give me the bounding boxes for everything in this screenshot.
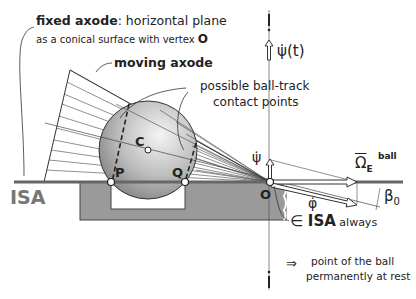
point-o-label: O xyxy=(260,188,271,201)
in-isa-text: ISA xyxy=(308,212,336,230)
omega-symbol: Ω xyxy=(355,154,366,172)
point-o-marker xyxy=(267,179,274,186)
isa-label: ISA xyxy=(10,188,45,207)
rest-line1: point of the ball xyxy=(311,256,394,267)
implies-icon: ⇒ xyxy=(286,257,297,270)
omega-subscript: E xyxy=(366,164,372,174)
fixed-axode-title: fixed axode xyxy=(36,13,118,28)
fixed-axode-desc: : horizontal plane xyxy=(118,13,227,28)
psi-dot-t-arrow-icon xyxy=(265,40,273,60)
beta-subscript: 0 xyxy=(394,196,400,207)
phi-dot-label: φ̇ xyxy=(308,196,317,210)
track-block xyxy=(80,182,286,220)
psi-dot-arrow-icon xyxy=(266,159,274,181)
point-p-marker xyxy=(108,179,115,186)
fixed-axode-label: fixed axode: horizontal plane xyxy=(36,15,227,28)
fixed-axode-line2-text: as a conical surface with vertex xyxy=(36,34,198,45)
psi-dot-label: ψ̇ xyxy=(252,150,261,164)
point-c-marker xyxy=(145,147,151,153)
point-q-label: Q xyxy=(172,166,183,179)
psi-dot-t-label: ψ̇(t) xyxy=(277,44,304,59)
contact-points-line2: contact points xyxy=(213,96,299,108)
fixed-axode-line2: as a conical surface with vertex O xyxy=(36,33,208,45)
rest-line2: permanently at rest xyxy=(306,271,410,282)
always-text: always xyxy=(336,216,377,229)
point-c-label: C xyxy=(135,135,145,148)
diagram-canvas: fixed axode: horizontal plane as a conic… xyxy=(0,0,416,299)
beta-symbol: β xyxy=(384,187,394,205)
omega-superscript: ball xyxy=(378,152,397,161)
beta0-label: β0 xyxy=(384,189,400,207)
contact-points-line1: possible ball-track xyxy=(200,80,309,92)
omega-label: ΩE xyxy=(355,156,373,174)
point-p-label: P xyxy=(115,166,125,179)
moving-axode-label: moving axode xyxy=(114,57,213,70)
in-isa-always-label: ∈ ISA always xyxy=(290,214,377,229)
vertex-o-text: O xyxy=(198,32,208,46)
element-of-symbol: ∈ xyxy=(290,212,308,230)
